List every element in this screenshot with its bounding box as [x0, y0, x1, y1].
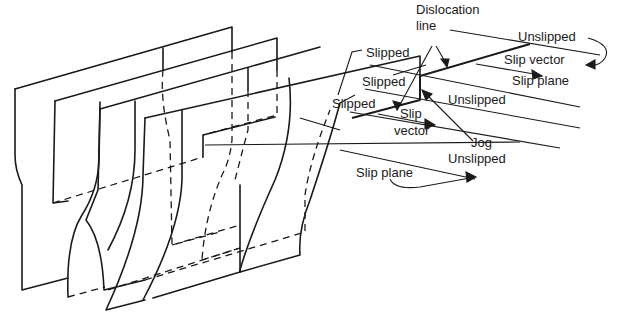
label-slip-plane-top: Slip plane: [512, 74, 569, 87]
label-slip-plane-low: Slip plane: [356, 166, 413, 179]
label-vector: vector: [394, 124, 429, 137]
label-slipped-2: Slipped: [362, 75, 405, 88]
label-slip-vector-top: Slip vector: [504, 53, 565, 66]
label-jog: Jog: [471, 136, 492, 149]
label-slip: Slip: [400, 107, 422, 120]
label-slipped-3: Slipped: [332, 97, 375, 110]
plane-1: [15, 27, 232, 290]
dislocation-diagram: [0, 0, 622, 319]
label-dislocation-line: line: [416, 19, 436, 32]
label-slipped-1: Slipped: [366, 46, 409, 59]
jog-step: [203, 117, 275, 157]
label-dislocation: Dislocation: [416, 3, 480, 16]
label-unslipped-top: Unslipped: [518, 30, 576, 43]
label-unslipped-low: Unslipped: [448, 152, 506, 165]
label-unslipped-mid: Unslipped: [448, 93, 506, 106]
